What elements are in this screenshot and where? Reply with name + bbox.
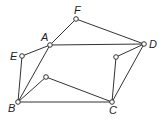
nodes-group [16,17,147,105]
edge-c-d [112,44,144,102]
label-f: F [74,4,82,16]
label-b: B [8,102,15,114]
edge-b-p2 [18,77,46,102]
edges-group [18,19,144,102]
label-c: C [109,104,117,116]
edge-a-d [50,44,144,45]
node-b [16,100,21,105]
node-e [20,54,25,59]
edge-a-f [50,19,76,45]
edge-p2-c [46,77,112,102]
label-e: E [10,50,18,62]
label-d: D [149,38,157,50]
node-p1 [114,55,119,60]
edge-a-e [22,45,50,56]
label-a: A [40,31,48,43]
graph-diagram: FAEDBC [0,0,164,122]
node-d [142,42,147,47]
node-p2 [44,75,49,80]
edge-p1-d [116,44,144,57]
node-a [48,43,53,48]
edge-f-d [76,19,144,44]
node-f [74,17,79,22]
